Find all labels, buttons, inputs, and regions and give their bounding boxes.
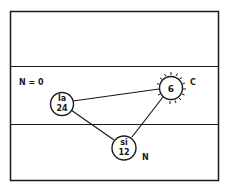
node-la-label: la: [58, 94, 66, 103]
lower-node-side-label: N: [142, 153, 149, 162]
edge-la-sun: [73, 89, 159, 101]
edge-si-sun: [132, 97, 163, 137]
sun-side-label: C: [190, 78, 196, 87]
diagram-canvas: la 24 6 si 12 N = 0 C N: [0, 0, 226, 190]
node-si-label: si: [120, 138, 128, 147]
node-sun-value: 6: [168, 84, 174, 94]
node-la: la 24: [51, 93, 74, 116]
node-si: si 12: [112, 136, 136, 160]
state-label: N = 0: [19, 78, 44, 87]
node-la-value: 24: [56, 104, 68, 113]
node-si-value: 12: [118, 148, 129, 157]
